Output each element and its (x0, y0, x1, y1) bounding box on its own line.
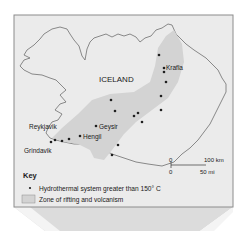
hydrothermal-dot (163, 67, 166, 70)
hydrothermal-dot (54, 139, 57, 142)
hydrothermal-dot (158, 54, 161, 57)
hydrothermal-dot (61, 140, 64, 143)
place-label-hengil: Hengil (83, 133, 102, 141)
place-label-reykjavik: Reykjavik (29, 123, 58, 131)
place-label-geysir: Geysir (99, 123, 119, 131)
hydrothermal-dot (117, 144, 120, 147)
key-shaded-box-symbol (22, 195, 35, 203)
hydrothermal-dot (165, 81, 168, 84)
place-label-krafla: Krafla (166, 64, 183, 71)
hydrothermal-dot (160, 95, 163, 98)
hydrothermal-dot (163, 71, 166, 74)
hydrothermal-dot (160, 109, 163, 112)
place-label-grindavik: Grindavik (24, 147, 52, 154)
hydrothermal-dot (68, 138, 71, 141)
hydrothermal-dot (114, 110, 117, 113)
hydrothermal-dot (95, 125, 98, 128)
key-item-hydrothermal: Hydrothermal system greater than 150° C (39, 185, 161, 193)
key-dot-symbol (29, 187, 31, 189)
hydrothermal-dot (141, 121, 144, 124)
hydrothermal-dot (111, 154, 114, 157)
hydrothermal-dot (79, 135, 82, 138)
key-title: Key (23, 171, 38, 180)
hydrothermal-dot (50, 141, 53, 144)
hydrothermal-dot (137, 112, 140, 115)
scale-km-value: 100 km (204, 157, 224, 163)
hydrothermal-dot (133, 115, 136, 118)
hydrothermal-dot (110, 99, 113, 102)
key-item-rift-zone: Zone of rifting and volcanism (39, 196, 124, 204)
country-label: ICELAND (99, 75, 134, 84)
scale-mi-value: 50 mi (200, 169, 215, 175)
iceland-map-figure: ICELAND Krafla Geysir Hengil Reykjavik G… (0, 0, 245, 231)
